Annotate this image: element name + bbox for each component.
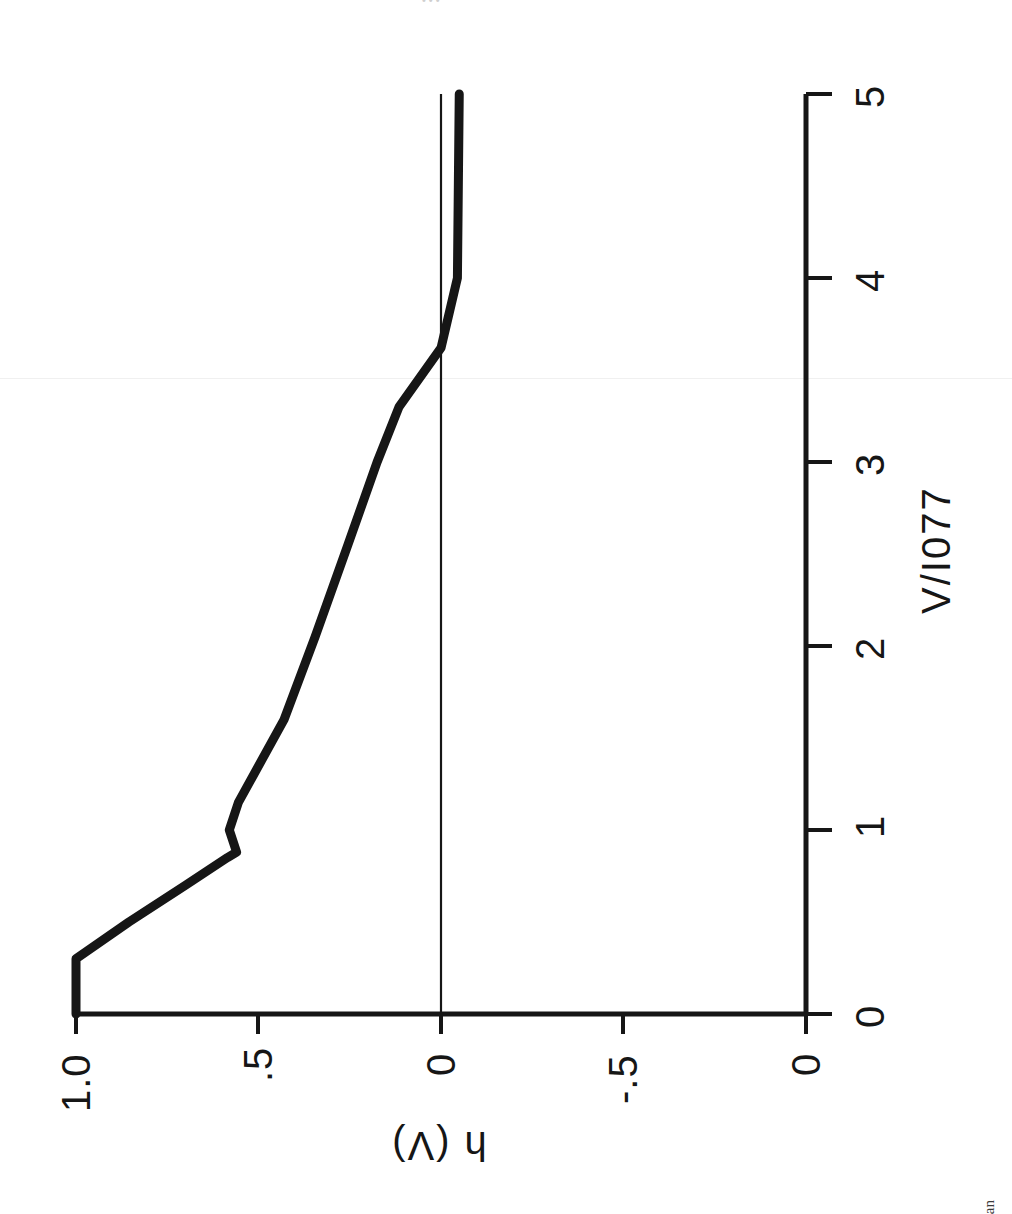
y-axis-ticks	[76, 1014, 806, 1034]
stray-margin-text: an	[981, 1200, 998, 1214]
x-tick-label-3: 3	[848, 453, 893, 476]
x-tick-label-2: 2	[848, 637, 893, 660]
x-tick-label-0: 0	[848, 1005, 893, 1028]
x-axis-ticks	[806, 94, 832, 1014]
y-axis-title: h (V)	[390, 1123, 487, 1168]
plot-svg	[36, 74, 976, 1134]
y-tick-label-5: 0	[784, 1053, 829, 1076]
plot-area: 1.0 .5 0 -.5 0 0 1 2 3 4 5 V/I077 h (V)	[36, 74, 976, 1134]
y-tick-label-3: 0	[419, 1053, 464, 1076]
y-tick-label-2: .5	[236, 1047, 281, 1082]
x-tick-label-1: 1	[848, 815, 893, 838]
top-cut-caption: •••	[422, 0, 443, 4]
x-axis-title: V/I077	[914, 486, 959, 614]
x-tick-label-5: 5	[848, 85, 893, 108]
x-tick-label-4: 4	[848, 269, 893, 292]
data-curve	[76, 94, 459, 1014]
y-tick-label-1: 1.0	[54, 1053, 99, 1112]
y-tick-label-4: -.5	[601, 1054, 646, 1104]
figure: 1.0 .5 0 -.5 0 0 1 2 3 4 5 V/I077 h (V)	[36, 74, 976, 1134]
